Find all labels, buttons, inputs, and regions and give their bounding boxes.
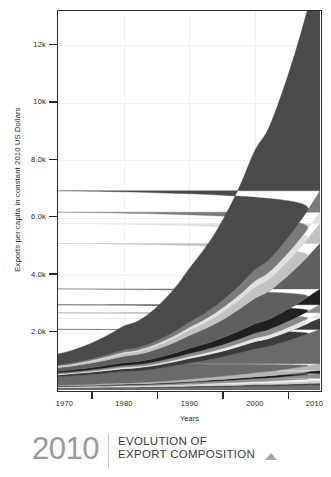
stacked-area-series bbox=[58, 11, 320, 390]
y-axis-tick-mark bbox=[49, 101, 57, 102]
triangle-up-icon bbox=[265, 453, 277, 460]
x-axis-tick-label: 2000 bbox=[246, 399, 264, 408]
y-axis-tick-label: 6.0k bbox=[31, 212, 46, 221]
x-axis-tick-label: 1990 bbox=[181, 399, 199, 408]
caption-line-1: EVOLUTION OF bbox=[118, 435, 255, 448]
plot-area bbox=[57, 10, 322, 392]
x-axis-tick-mark bbox=[288, 392, 289, 399]
y-axis-tick-mark bbox=[49, 44, 57, 45]
x-axis-tick-label: 1980 bbox=[115, 399, 133, 408]
y-axis-tick-label: 12k bbox=[33, 40, 46, 49]
y-axis-tick-label: 8.0k bbox=[31, 155, 46, 164]
caption-line-2: EXPORT COMPOSITION bbox=[118, 448, 255, 461]
y-axis-tick-mark bbox=[49, 159, 57, 160]
x-axis-title: Years bbox=[57, 414, 322, 423]
y-axis-tick: 8.0k bbox=[0, 153, 57, 165]
y-axis-tick-label: 4.0k bbox=[31, 270, 46, 279]
y-axis-tick: 10k bbox=[0, 96, 57, 108]
y-axis-tick: 12k bbox=[0, 38, 57, 50]
x-axis-tick-label: 2010 bbox=[306, 399, 324, 408]
y-axis-tick-mark bbox=[49, 331, 57, 332]
caption-bar: 2010 EVOLUTION OF EXPORT COMPOSITION bbox=[0, 432, 331, 477]
x-axis: 19701980199020002010 bbox=[57, 392, 322, 416]
y-axis-tick-mark bbox=[49, 273, 57, 274]
x-axis-tick-label: 1970 bbox=[56, 399, 74, 408]
y-axis-tick-mark bbox=[49, 216, 57, 217]
y-axis: Exports per capita in constant 2010 US D… bbox=[0, 0, 57, 402]
chart-page: Exports per capita in constant 2010 US D… bbox=[0, 0, 331, 477]
caption-divider bbox=[108, 434, 109, 468]
y-axis-tick-label: 10k bbox=[33, 97, 46, 106]
x-axis-tick-mark bbox=[91, 392, 92, 399]
x-axis-tick-mark bbox=[157, 392, 158, 399]
y-axis-tick: 2.0k bbox=[0, 326, 57, 338]
x-axis-tick-mark bbox=[222, 392, 223, 399]
y-axis-tick: 6.0k bbox=[0, 211, 57, 223]
caption-title: EVOLUTION OF EXPORT COMPOSITION bbox=[118, 435, 255, 460]
y-axis-tick-label: 2.0k bbox=[31, 327, 46, 336]
caption-year: 2010 bbox=[32, 434, 99, 464]
y-axis-tick: 4.0k bbox=[0, 268, 57, 280]
